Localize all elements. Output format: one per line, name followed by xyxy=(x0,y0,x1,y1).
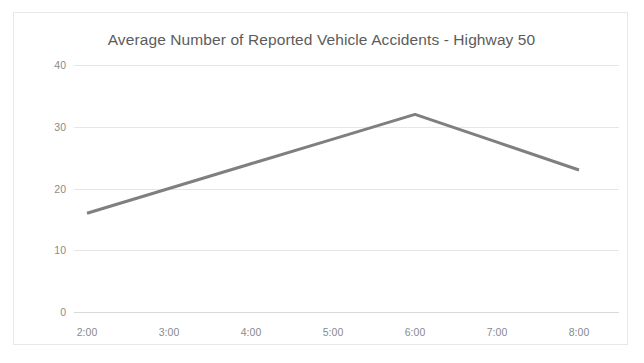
chart-card: Average Number of Reported Vehicle Accid… xyxy=(13,12,628,345)
plot-area xyxy=(14,13,629,346)
series-line-accidents xyxy=(87,114,579,213)
